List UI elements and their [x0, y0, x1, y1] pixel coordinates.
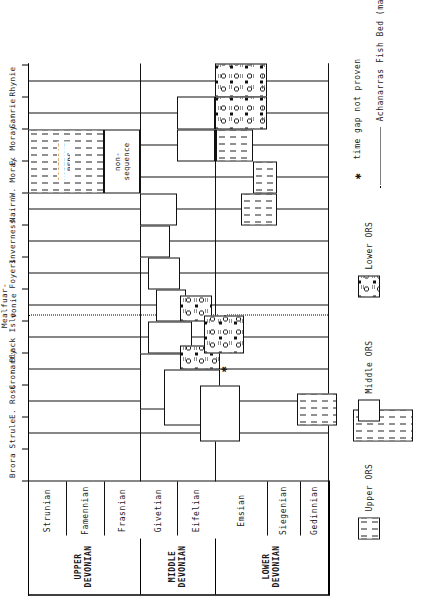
block-e-ross-upper-ors: [297, 393, 337, 425]
stage-cell-frasnian: Frasnian: [104, 481, 140, 539]
series-upper-devonian-label: UPPER DEVONIAN: [74, 545, 94, 587]
stage-cell-givetian: Givetian: [140, 481, 177, 539]
series-upper-devonian: UPPER DEVONIAN: [28, 538, 140, 594]
block-inverness-middle-ors: [140, 225, 170, 257]
locality-label-brora: Brora: [9, 453, 18, 478]
time-gap-marker: ✱: [221, 366, 227, 372]
non-sequence-label: non- sequence: [113, 141, 131, 181]
middle-ors-swatch-icon: [358, 399, 380, 421]
locality-label-strule: Strule: [9, 418, 18, 448]
stage-label-gedinnian: Gedinnian: [310, 486, 319, 535]
stage-label-famennian: Famennian: [81, 486, 90, 535]
block-label-rosebrae: ROSEBRAE BEDS: [29, 130, 103, 192]
locality-tick: [22, 384, 28, 385]
block-e-moray-upper-ors: [216, 129, 253, 161]
locality-text: Nairn: [8, 197, 17, 222]
stage-cell-emsian: Emsian: [215, 481, 267, 539]
legend-item-upper-ors: Upper ORS: [358, 463, 380, 539]
lower-ors-swatch-icon: [358, 275, 380, 297]
block-moray-rosebrae-beds: ROSEBRAE BEDS: [28, 129, 104, 193]
correlation-plot: Brora Strule E. Ross Cromarty Black Isle…: [28, 63, 328, 481]
legend-label-fish-bed: Achanarras Fish Bed (marker): [376, 0, 385, 121]
stage-label-siegenian: Siegenian: [279, 486, 288, 535]
block-gamrie-lower-ors: [215, 96, 267, 129]
locality-text: Rhynie: [8, 66, 17, 96]
legend-item-middle-ors: Middle ORS: [358, 340, 380, 421]
series-lower-devonian: LOWER DEVONIAN: [215, 538, 328, 594]
locality-tick: [22, 320, 28, 321]
locality-tick: [22, 480, 28, 481]
locality-tick: [22, 352, 28, 353]
block-e-moray-middle-ors: [177, 129, 215, 161]
stage-cell-gedinnian: Gedinnian: [300, 481, 328, 539]
locality-tick: [22, 256, 28, 257]
legend-item-time-gap: ✱ time gap not proven: [352, 58, 363, 187]
stage-label-givetian: Givetian: [154, 488, 163, 531]
locality-label-nairn: Nairn: [9, 197, 18, 222]
locality-tick: [22, 64, 28, 65]
locality-separator: [28, 432, 328, 433]
stage-column: Strunian Famennian Frasnian Givetian Eif…: [28, 481, 328, 539]
stage-label-eifelian: Eifelian: [192, 488, 201, 531]
locality-tick: [22, 288, 28, 289]
locality-tick: [22, 96, 28, 97]
stage-label-emsian: Emsian: [237, 494, 246, 527]
series-lower-devonian-label: LOWER DEVONIAN: [262, 545, 282, 587]
locality-text: Mealfuar- vonie: [0, 283, 17, 328]
block-brora-lower-ors: [204, 315, 244, 353]
block-moray-non-sequence: non- sequence: [104, 129, 140, 193]
dotted-line-marker-icon: [380, 127, 381, 187]
locality-text: E. Moray: [8, 125, 17, 165]
legend-item-fish-bed: Achanarras Fish Bed (marker): [376, 0, 385, 187]
block-brora-middle-ors: [200, 385, 240, 441]
series-middle-devonian: MIDDLE DEVONIAN: [140, 538, 215, 594]
legend-label-middle-ors: Middle ORS: [365, 340, 374, 393]
locality-text: Inverness: [8, 219, 17, 264]
block-rhynie-lower-ors: [215, 63, 267, 97]
locality-tick: [22, 224, 28, 225]
block-foyers-middle-ors: [148, 257, 180, 289]
locality-separator: [28, 240, 328, 241]
locality-label-mealfuarvonie: Mealfuar- vonie: [1, 283, 18, 328]
legend: Upper ORS Middle ORS Lower ORS ✱ time ga…: [350, 63, 426, 539]
locality-label-inverness: Inverness: [9, 219, 18, 264]
locality-text: Strule: [8, 418, 17, 448]
locality-tick: [22, 448, 28, 449]
stage-cell-famennian: Famennian: [66, 481, 104, 539]
legend-label-lower-ors: Lower ORS: [365, 221, 374, 269]
legend-item-lower-ors: Lower ORS: [358, 221, 380, 297]
locality-separator: [28, 80, 328, 81]
block-w-moray-upper-ors: [253, 161, 277, 193]
locality-label-rhynie: Rhynie: [9, 66, 18, 96]
series-column: UPPER DEVONIAN MIDDLE DEVONIAN LOWER DEV…: [28, 538, 328, 595]
stage-label-frasnian: Frasnian: [118, 488, 127, 531]
stage-cell-strunian: Strunian: [28, 481, 66, 539]
stage-label-strunian: Strunian: [43, 488, 52, 531]
block-nairn-upper-ors: [241, 193, 277, 225]
stage-cell-eifelian: Eifelian: [177, 481, 215, 539]
block-label-non-sequence: non- sequence: [105, 130, 139, 192]
locality-text: Gamrie: [8, 98, 17, 128]
block-nairn-middle-ors: [140, 193, 177, 225]
stage-cell-siegenian: Siegenian: [267, 481, 300, 539]
stratigraphic-correlation-figure: UPPER DEVONIAN MIDDLE DEVONIAN LOWER DEV…: [0, 0, 440, 599]
asterisk-marker-icon: ✱: [352, 165, 363, 187]
locality-tick: [22, 416, 28, 417]
series-middle-devonian-label: MIDDLE DEVONIAN: [168, 545, 188, 587]
rosebrae-beds-label: ROSEBRAE BEDS: [57, 141, 75, 181]
locality-label-gamrie: Gamrie: [9, 98, 18, 128]
rotated-figure-host: UPPER DEVONIAN MIDDLE DEVONIAN LOWER DEV…: [0, 0, 440, 599]
locality-separator: [28, 208, 328, 209]
legend-label-upper-ors: Upper ORS: [365, 463, 374, 511]
block-gamrie-middle-ors: [177, 96, 215, 129]
legend-label-time-gap: time gap not proven: [353, 58, 362, 159]
locality-text: Brora: [8, 453, 17, 478]
locality-label-e-moray: E. Moray: [9, 125, 18, 165]
upper-ors-swatch-icon: [358, 517, 380, 539]
